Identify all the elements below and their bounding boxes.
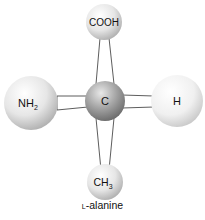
alanine-diagram: COOH NH2 H CH3 C [0, 0, 205, 220]
bond-right [122, 95, 154, 108]
atom-cooh-label: COOH [89, 17, 119, 28]
bond-bottom [96, 118, 114, 170]
atom-nh2: NH2 [4, 76, 58, 130]
caption: L-alanine [0, 199, 205, 211]
atom-h: H [151, 75, 203, 127]
atom-ch3: CH3 [87, 164, 123, 200]
atom-carbon-label: C [101, 95, 109, 107]
atom-cooh: COOH [86, 4, 122, 40]
atom-h-label: H [173, 95, 181, 107]
atom-carbon: C [85, 81, 125, 121]
bond-left [57, 96, 88, 110]
caption-text: -alanine [86, 199, 123, 211]
bond-top [96, 38, 114, 84]
